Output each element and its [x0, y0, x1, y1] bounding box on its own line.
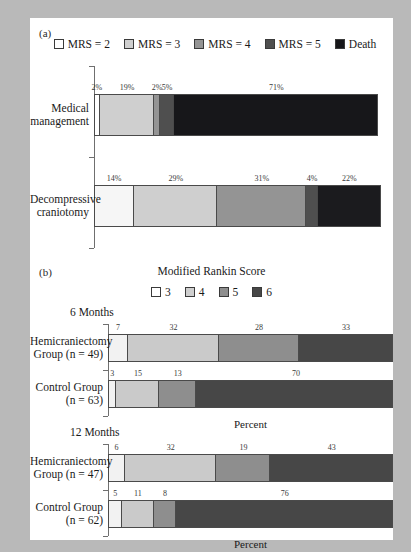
bar-segment[interactable] — [306, 185, 317, 227]
legend-swatch-icon — [265, 39, 275, 49]
bar-value-label: 71% — [269, 83, 284, 92]
legend-label: Death — [349, 38, 376, 50]
bar-segment[interactable] — [174, 94, 378, 136]
bar-segment[interactable] — [134, 185, 217, 227]
group-axis-tick — [103, 370, 108, 371]
bar-value-label: 7 — [116, 323, 120, 332]
bar-category-label: Control Group(n = 62) — [30, 501, 103, 527]
group-axis-tick — [103, 490, 108, 491]
stacked-bar[interactable] — [94, 185, 381, 227]
bar-segment[interactable] — [116, 380, 158, 408]
bar-segment[interactable] — [94, 185, 134, 227]
bar-category-label: HemicraniectomyGroup (n = 49) — [30, 335, 103, 361]
stacked-bar[interactable] — [108, 380, 393, 408]
legend-label: MRS = 2 — [68, 38, 110, 50]
bar-category-label-line2: (n = 63) — [30, 394, 103, 407]
legend-swatch-icon — [124, 39, 134, 49]
group-heading: 6 Months — [70, 306, 114, 318]
bar-segment[interactable] — [100, 94, 155, 136]
bar-value-label: 2% — [92, 83, 103, 92]
bar-category-label: Decompressivecraniotomy — [30, 193, 89, 219]
bar-segment[interactable] — [122, 500, 153, 528]
legend-item[interactable]: 3 — [151, 286, 171, 298]
figure-panel: (a) MRS = 2MRS = 3MRS = 4MRS = 5Death 2%… — [30, 18, 393, 540]
x-axis-caption: Percent — [108, 418, 393, 430]
panel-a-tick-bottom — [89, 248, 94, 249]
legend-item[interactable]: 4 — [185, 286, 205, 298]
legend-label: 4 — [199, 286, 205, 298]
bar-category-label: Control Group(n = 63) — [30, 381, 103, 407]
bar-segment[interactable] — [196, 380, 394, 408]
bar-value-label: 5% — [162, 83, 173, 92]
bar-segment[interactable] — [217, 185, 306, 227]
bar-category-label-line1: Decompressive — [30, 193, 89, 206]
legend-swatch-icon — [151, 287, 161, 297]
bar-category-label-line1: Control Group — [30, 381, 103, 394]
bar-value-label: 14% — [107, 174, 122, 183]
bar-category-label-line2: (n = 62) — [30, 514, 103, 527]
legend-label: 5 — [233, 286, 239, 298]
bar-value-label: 43 — [328, 443, 336, 452]
legend-swatch-icon — [335, 39, 345, 49]
bar-segment[interactable] — [299, 334, 393, 362]
bar-category-label-line1: Medical — [30, 102, 89, 115]
legend-item[interactable]: MRS = 4 — [194, 38, 250, 50]
bar-segment[interactable] — [219, 334, 299, 362]
group-axis-tick — [103, 536, 108, 537]
bar-value-label: 32 — [167, 443, 175, 452]
bar-segment[interactable] — [154, 500, 177, 528]
bar-segment[interactable] — [216, 454, 270, 482]
legend-item[interactable]: MRS = 3 — [124, 38, 180, 50]
group-axis-tick — [103, 324, 108, 325]
panel-a-tick-mid — [89, 157, 94, 158]
legend-swatch-icon — [252, 287, 262, 297]
bar-category-label: Medicalmanagement — [30, 102, 89, 128]
bar-value-label: 15 — [134, 369, 142, 378]
bar-value-label: 13 — [174, 369, 182, 378]
bar-segment[interactable] — [176, 500, 393, 528]
bar-value-label: 19 — [239, 443, 247, 452]
legend-item[interactable]: MRS = 5 — [265, 38, 321, 50]
bar-segment[interactable] — [318, 185, 381, 227]
bar-category-label-line1: Control Group — [30, 501, 103, 514]
bar-value-label: 22% — [342, 174, 357, 183]
legend-panel-b: 3456 — [90, 284, 333, 300]
stacked-bar[interactable] — [108, 334, 393, 362]
stacked-bar[interactable] — [108, 454, 393, 482]
legend-item[interactable]: 6 — [252, 286, 272, 298]
bar-value-label: 6 — [115, 443, 119, 452]
legend-label: 6 — [266, 286, 272, 298]
bar-category-label: HemicraniectomyGroup (n = 47) — [30, 455, 103, 481]
bar-segment[interactable] — [108, 380, 116, 408]
legend-label: MRS = 4 — [208, 38, 250, 50]
legend-swatch-icon — [194, 39, 204, 49]
bar-category-label-line2: Group (n = 49) — [30, 348, 103, 361]
bar-segment[interactable] — [270, 454, 393, 482]
legend-item[interactable]: Death — [335, 38, 376, 50]
bar-segment[interactable] — [128, 334, 219, 362]
bar-segment[interactable] — [108, 500, 122, 528]
legend-item[interactable]: 5 — [219, 286, 239, 298]
bar-value-label: 11 — [134, 489, 142, 498]
legend-swatch-icon — [54, 39, 64, 49]
bar-segment[interactable] — [160, 94, 174, 136]
legend-label: MRS = 3 — [138, 38, 180, 50]
bar-value-label: 19% — [120, 83, 135, 92]
legend-label: 3 — [165, 286, 171, 298]
stacked-bar[interactable] — [94, 94, 381, 136]
legend-label: MRS = 5 — [279, 38, 321, 50]
group-heading: 12 Months — [70, 426, 120, 438]
bar-value-label: 31% — [255, 174, 270, 183]
bar-category-label-line1: Hemicraniectomy — [30, 335, 103, 348]
bar-value-label: 8 — [163, 489, 167, 498]
stacked-bar[interactable] — [108, 500, 393, 528]
bar-value-label: 33 — [342, 323, 350, 332]
legend-swatch-icon — [219, 287, 229, 297]
legend-item[interactable]: MRS = 2 — [54, 38, 110, 50]
bar-category-label-line2: management — [30, 115, 89, 128]
legend-swatch-icon — [185, 287, 195, 297]
bar-segment[interactable] — [159, 380, 196, 408]
bar-value-label: 70 — [292, 369, 300, 378]
bar-segment[interactable] — [125, 454, 216, 482]
bar-value-label: 4% — [307, 174, 318, 183]
